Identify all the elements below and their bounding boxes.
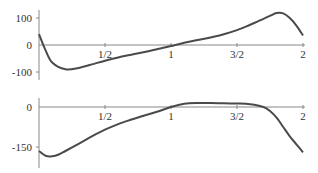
top-x-label-1: 1: [168, 48, 174, 60]
chart-figure: 100 0 -100 1/2 1 3/2 2 0 -150 1/2 1 3/2 …: [0, 0, 318, 173]
top-x-label-2: 2: [300, 48, 306, 60]
bottom-x-label-half: 1/2: [98, 110, 112, 122]
bottom-x-label-2: 2: [300, 110, 306, 122]
bottom-x-label-1: 1: [168, 110, 174, 122]
top-x-label-3half: 3/2: [230, 48, 244, 60]
bottom-panel: 0 -150 1/2 1 3/2 2: [12, 98, 306, 168]
bottom-x-label-3half: 3/2: [230, 110, 244, 122]
bottom-y-label-neg150: -150: [12, 141, 33, 153]
bottom-y-label-0: 0: [27, 101, 33, 113]
top-panel: 100 0 -100 1/2 1 3/2 2: [12, 10, 306, 80]
top-y-label-100: 100: [16, 12, 33, 24]
top-y-label-0: 0: [27, 39, 33, 51]
top-x-label-half: 1/2: [98, 48, 112, 60]
top-y-label-neg100: -100: [12, 66, 33, 78]
top-curve: [39, 13, 303, 70]
